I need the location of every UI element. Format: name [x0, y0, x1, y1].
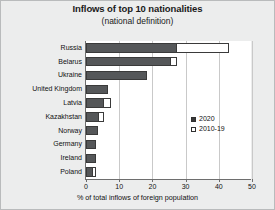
category-label: Belarus [58, 58, 82, 66]
legend-swatch-filled-icon [191, 117, 196, 122]
chart-figure: Inflows of top 10 nationalities (nationa… [0, 0, 275, 210]
bar-group: Belarus [86, 55, 252, 69]
chart-legend: 2020 2010-19 [191, 114, 225, 134]
bar-2020 [86, 167, 93, 176]
bar-2020 [86, 112, 99, 121]
bar-group: Germany [86, 138, 252, 152]
bar-2020 [86, 85, 108, 94]
bar-2020 [86, 98, 104, 107]
legend-label-2020: 2020 [199, 114, 215, 124]
x-axis-tick-label: 40 [215, 183, 223, 191]
legend-item-2010-19: 2010-19 [191, 124, 225, 134]
x-axis-tick [252, 179, 253, 182]
x-axis-tick-label: 30 [182, 183, 190, 191]
gridline [252, 41, 253, 179]
category-label: Ireland [61, 154, 82, 162]
bar-2020 [86, 126, 98, 135]
category-label: Russia [61, 44, 82, 52]
category-label: Norway [58, 127, 82, 135]
bar-2020 [86, 57, 171, 66]
bar-2020 [86, 71, 147, 80]
bar-group: Kazakhstan [86, 110, 252, 124]
bar-2020 [86, 43, 177, 52]
x-axis-tick-label: 20 [148, 183, 156, 191]
chart-title: Inflows of top 10 nationalities [1, 2, 274, 15]
bar-group: Ukraine [86, 69, 252, 83]
bar-group: Latvia [86, 96, 252, 110]
bar-group: Russia [86, 41, 252, 55]
bar-group: Poland [86, 165, 252, 179]
bar-group: United Kingdom [86, 82, 252, 96]
bar-2020 [86, 154, 96, 163]
bar-group: Norway [86, 124, 252, 138]
bar-group: Ireland [86, 151, 252, 165]
x-axis-line [85, 179, 251, 180]
bar-2020 [86, 140, 96, 149]
chart-subtitle: (national definition) [1, 15, 274, 27]
plot-area: 01020304050RussiaBelarusUkraineUnited Ki… [85, 41, 251, 179]
category-label: Kazakhstan [45, 113, 82, 121]
legend-swatch-hollow-icon [191, 127, 196, 132]
x-axis-tick-label: 50 [248, 183, 256, 191]
category-label: Germany [53, 140, 82, 148]
category-label: United Kingdom [32, 85, 82, 93]
category-label: Poland [60, 168, 82, 176]
category-label: Latvia [63, 99, 82, 107]
x-axis-label: % of total inflows of foreign population [1, 193, 274, 202]
legend-label-2010-19: 2010-19 [199, 124, 225, 134]
chart-title-block: Inflows of top 10 nationalities (nationa… [1, 2, 274, 27]
category-label: Ukraine [58, 71, 82, 79]
x-axis-tick-label: 0 [84, 183, 88, 191]
legend-item-2020: 2020 [191, 114, 225, 124]
x-axis-tick-label: 10 [115, 183, 123, 191]
